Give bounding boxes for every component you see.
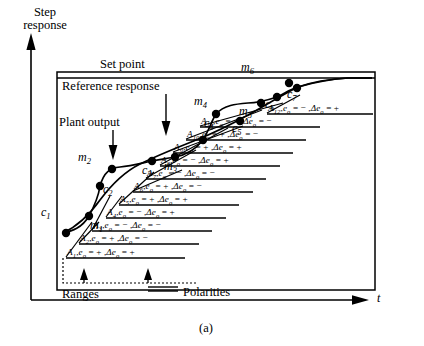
figure-caption: (a): [199, 322, 213, 335]
point-label-m6: m6: [241, 61, 254, 76]
annotation-A11: A11,eo = − ,Δeo = −: [201, 117, 272, 129]
point-label-c1: c1: [41, 206, 51, 221]
ranges-bracket: [63, 258, 198, 283]
annotation-A4: A4,eo = − ,Δeo = +: [107, 208, 175, 220]
polarities-label: Polarities: [183, 286, 230, 299]
marker-m6: [285, 79, 293, 87]
y-axis-label: Step response: [6, 6, 84, 32]
point-label-m4: m4: [194, 95, 207, 110]
ranges-label: Ranges: [62, 288, 99, 301]
marker-m5: [257, 99, 265, 107]
annotation-A9: A9,eo = + ,Δeo = +: [174, 143, 242, 155]
annotation-A6: A6,eo = + ,Δeo = −: [134, 182, 202, 194]
annotation-A12: A12,eo = − ,Δeo = +: [268, 104, 339, 116]
marker-m2: [108, 165, 116, 173]
annotation-A2: A2,eo = + ,Δeo = −: [80, 234, 148, 246]
annotation-A5: A5,eo = + ,Δeo = +: [120, 195, 188, 207]
x-axis-label: t: [377, 292, 380, 305]
point-label-c7: c7: [287, 88, 297, 103]
set-point-label: Set point: [100, 58, 145, 71]
annotation-A7: A7,eo = − ,Δeo = −: [147, 169, 215, 181]
y-axis: [26, 33, 35, 300]
reference-response-arrow: [162, 94, 171, 136]
annotation-A3: A3,eo = − ,Δeo = −: [93, 221, 161, 233]
point-label-m2: m2: [78, 151, 91, 166]
plant-output-label: Plant output: [59, 116, 120, 129]
y-axis-label-line2: response: [6, 19, 84, 32]
annotation-A10: A10,eo = + ,Δeo = −: [187, 130, 258, 142]
polarities-leader: [148, 287, 178, 291]
reference-response-label: Reference response: [62, 80, 160, 93]
marker-c1: [62, 229, 70, 237]
plant-output-arrow: [109, 130, 118, 160]
annotation-A8: A8,eo = − ,Δeo = +: [161, 156, 229, 168]
annotation-A1: A1,eo = + ,Δeo = +: [67, 248, 135, 260]
point-label-c2: c2: [103, 183, 113, 198]
